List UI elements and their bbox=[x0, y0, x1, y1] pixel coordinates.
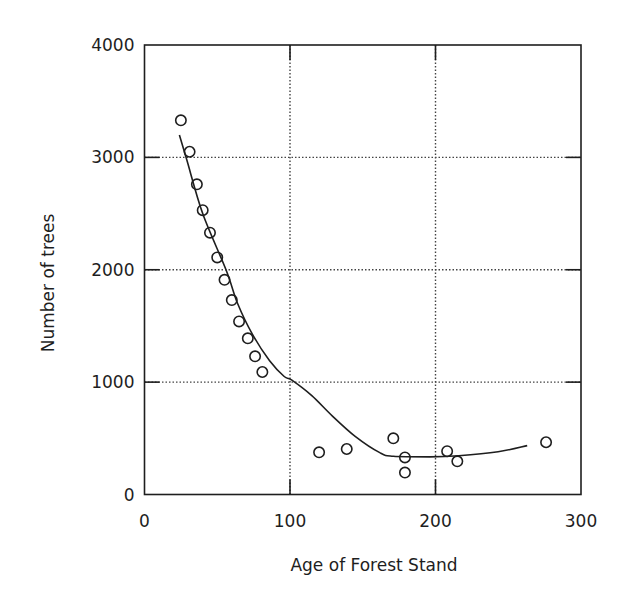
data-point bbox=[388, 433, 398, 443]
data-point bbox=[243, 333, 253, 343]
data-point bbox=[257, 367, 267, 377]
x-tick-label: 0 bbox=[139, 511, 150, 531]
data-point bbox=[452, 456, 462, 466]
y-tick-label: 1000 bbox=[91, 372, 134, 392]
y-axis-label: Number of trees bbox=[38, 214, 58, 353]
data-point bbox=[234, 316, 244, 326]
x-axis-label: Age of Forest Stand bbox=[290, 555, 457, 575]
chart: 0100200300 01000200030004000 Age of Fore… bbox=[0, 0, 626, 602]
y-tick-labels: 01000200030004000 bbox=[91, 35, 134, 505]
data-point bbox=[442, 446, 452, 456]
y-tick-label: 4000 bbox=[91, 35, 134, 55]
data-point bbox=[400, 467, 410, 477]
y-tick-label: 3000 bbox=[91, 147, 134, 167]
trend-line bbox=[179, 135, 527, 457]
x-tick-label: 100 bbox=[274, 511, 306, 531]
data-point bbox=[250, 351, 260, 361]
x-tick-label: 300 bbox=[565, 511, 597, 531]
data-point bbox=[541, 437, 551, 447]
y-tick-label: 0 bbox=[124, 485, 135, 505]
gridlines bbox=[145, 45, 582, 495]
data-point bbox=[184, 147, 194, 157]
x-tick-labels: 0100200300 bbox=[139, 511, 597, 531]
y-tick-label: 2000 bbox=[91, 260, 134, 280]
data-point bbox=[219, 275, 229, 285]
x-tick-label: 200 bbox=[419, 511, 451, 531]
data-point bbox=[227, 295, 237, 305]
data-point bbox=[314, 447, 324, 457]
data-point bbox=[342, 444, 352, 454]
data-point bbox=[176, 115, 186, 125]
scatter-points bbox=[176, 115, 552, 478]
